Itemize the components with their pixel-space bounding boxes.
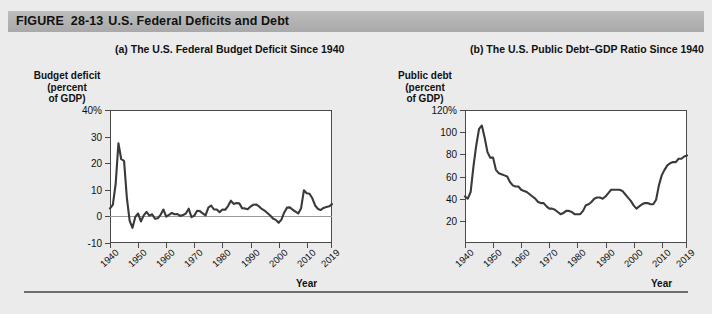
panel_a-x-tick-label: 1960 <box>154 247 177 269</box>
panel_a-x-tick-label: 1940 <box>98 247 121 269</box>
panel-b-plot-area: 20406080100120%1940195019601970198019902… <box>465 110 687 243</box>
panel_b-x-tick <box>634 243 635 248</box>
panel_b-x-tick <box>662 243 663 248</box>
panel_b-x-tick <box>465 243 466 248</box>
panel_a-y-tick-label: 30 <box>91 131 102 142</box>
panel_a-y-tick-label: -10 <box>88 238 102 249</box>
panel_a-x-tick <box>138 243 139 248</box>
panel-a-y-axis-title-line-1: Budget deficit <box>27 70 107 82</box>
panel_b-x-tick-label: 2010 <box>649 247 672 269</box>
panel_b-y-tick-label: 120% <box>431 105 457 116</box>
panel_b-x-tick <box>606 243 607 248</box>
panel-b-y-axis-title-line-3: of GDP) <box>385 93 465 105</box>
panel_b-y-tick-label: 60 <box>446 171 457 182</box>
panel_b-series <box>465 110 687 243</box>
figure-title: U.S. Federal Deficits and Debt <box>108 14 289 28</box>
panel_b-x-tick-label: 1960 <box>509 247 532 269</box>
panel_a-y-tick-label: 40% <box>82 105 102 116</box>
panel_a-x-tick <box>279 243 280 248</box>
figure-label: FIGURE <box>16 14 64 28</box>
panel-b-y-axis-title-line-2: (percent <box>385 82 465 94</box>
figure-bottom-rule <box>24 291 688 293</box>
figure-root: FIGURE28-13U.S. Federal Deficits and Deb… <box>0 0 712 314</box>
panel_a-x-tick <box>331 243 332 248</box>
panel_b-y-tick-label: 20 <box>446 215 457 226</box>
panel-b-x-axis-title: Year <box>651 278 672 289</box>
panel-a-x-axis-title: Year <box>296 278 317 289</box>
panel-b-y-axis-title: Public debt (percent of GDP) <box>385 70 465 105</box>
panel_b-x-tick-label: 1940 <box>453 247 476 269</box>
panel_b-x-tick-label: 1950 <box>481 247 504 269</box>
panel_a-y-tick-label: 0 <box>96 211 102 222</box>
panel_a-x-tick <box>307 243 308 248</box>
panel_a-x-tick-label: 1990 <box>238 247 261 269</box>
panel_a-x-tick <box>251 243 252 248</box>
panel-a-title: (a) The U.S. Federal Budget Deficit Sinc… <box>115 43 344 55</box>
panel_b-x-tick <box>493 243 494 248</box>
panel_a-x-tick-label: 2019 <box>319 247 342 269</box>
panel_a-series <box>110 110 332 243</box>
panel_a-x-tick-label: 2000 <box>266 247 289 269</box>
panel_a-y-tick-label: 20 <box>91 158 102 169</box>
panel-a-y-axis-title: Budget deficit (percent of GDP) <box>27 70 107 105</box>
panel_a-y-tick-label: 10 <box>91 184 102 195</box>
panel_a-x-tick <box>110 243 111 248</box>
panel_b-y-tick-label: 40 <box>446 193 457 204</box>
panel_b-x-tick-label: 1990 <box>593 247 616 269</box>
panel-b-title: (b) The U.S. Public Debt–GDP Ratio Since… <box>470 43 704 55</box>
panel-b-y-axis-title-line-1: Public debt <box>385 70 465 82</box>
panel_b-x-tick-label: 1970 <box>537 247 560 269</box>
panel_a-x-tick-label: 1950 <box>126 247 149 269</box>
panel_b-x-tick <box>686 243 687 248</box>
panel_b-y-tick-label: 80 <box>446 149 457 160</box>
panel_b-x-tick-label: 2000 <box>621 247 644 269</box>
panel_a-x-tick-label: 1980 <box>210 247 233 269</box>
figure-number: 28-13 <box>71 14 103 28</box>
figure-header-band: FIGURE28-13U.S. Federal Deficits and Deb… <box>8 11 704 32</box>
panel_a-x-tick-label: 1970 <box>182 247 205 269</box>
panel-a-y-axis-title-line-3: of GDP) <box>27 93 107 105</box>
panel_a-x-tick-label: 2010 <box>294 247 317 269</box>
panel-a-y-axis-title-line-2: (percent <box>27 82 107 94</box>
panel_b-x-tick-label: 1980 <box>565 247 588 269</box>
figure-header-text: FIGURE28-13U.S. Federal Deficits and Deb… <box>16 14 289 28</box>
panel-a-plot-area: -10010203040%194019501960197019801990200… <box>110 110 332 243</box>
panel_b-x-tick-label: 2019 <box>674 247 697 269</box>
panel_b-y-tick-label: 100 <box>440 127 457 138</box>
